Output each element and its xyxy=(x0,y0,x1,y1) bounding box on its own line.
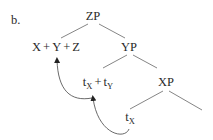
edge-yp-trace-complex xyxy=(103,55,127,68)
edge-zp-complex-head xyxy=(61,24,88,38)
node-yp: YP xyxy=(121,40,137,54)
example-label: b. xyxy=(11,13,20,27)
syntax-tree-diagram: b. ZP X+Y+Z YP tX+tY XP tX xyxy=(0,0,213,140)
node-trace-x: tX xyxy=(125,110,135,126)
edge-zp-yp xyxy=(99,24,125,38)
node-zp: ZP xyxy=(86,9,101,23)
edge-xp-trace-x xyxy=(130,91,163,109)
node-xp: XP xyxy=(158,75,174,89)
edge-yp-xp xyxy=(133,55,157,68)
node-trace-complex: tX+tY xyxy=(83,75,113,91)
movement-arrow-to-trace-complex xyxy=(93,98,129,134)
movement-arrow-to-complex-head xyxy=(57,60,92,99)
edge-xp-empty xyxy=(169,91,202,110)
node-complex-head: X+Y+Z xyxy=(32,40,80,54)
